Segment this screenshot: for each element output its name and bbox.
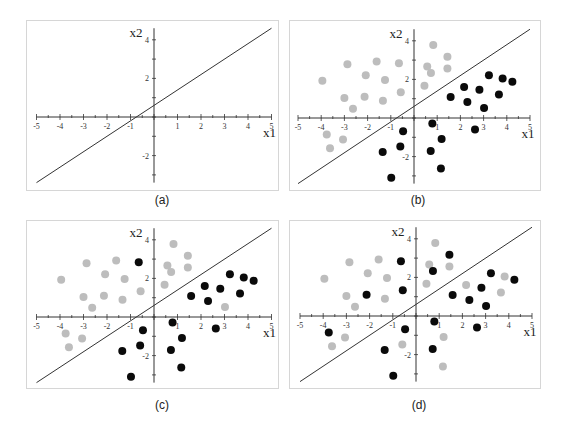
point-black: [236, 289, 244, 297]
point-black: [485, 71, 493, 79]
point-black: [389, 372, 397, 380]
point-gray: [161, 281, 169, 289]
svg-text:x1: x1: [263, 125, 276, 140]
point-black: [240, 273, 248, 281]
svg-text:-4: -4: [57, 122, 64, 131]
svg-text:-2: -2: [142, 352, 149, 361]
svg-text:4: 4: [246, 122, 250, 131]
caption-b: (b): [411, 193, 426, 207]
point-gray: [328, 342, 336, 350]
svg-text:x2: x2: [130, 225, 143, 240]
point-black: [167, 346, 175, 354]
point-black: [465, 296, 473, 304]
point-black: [475, 86, 483, 94]
point-black: [381, 346, 389, 354]
point-black: [396, 143, 404, 151]
svg-text:-3: -3: [343, 321, 350, 330]
point-gray: [345, 258, 353, 266]
point-black: [428, 119, 436, 127]
caption-c: (c): [155, 398, 169, 412]
svg-text:-2: -2: [364, 123, 371, 132]
point-gray: [184, 252, 192, 260]
point-black: [487, 269, 495, 277]
point-gray: [429, 41, 437, 49]
point-gray: [431, 239, 439, 247]
point-black: [363, 291, 371, 299]
point-gray: [170, 240, 178, 248]
point-gray: [375, 255, 383, 263]
point-gray: [221, 303, 229, 311]
svg-text:-5: -5: [297, 321, 304, 330]
svg-text:3: 3: [223, 322, 227, 331]
point-black: [438, 135, 446, 143]
svg-text:4: 4: [505, 123, 509, 132]
point-black: [499, 74, 507, 82]
point-black: [508, 78, 516, 86]
svg-text:-1: -1: [127, 122, 134, 131]
point-black: [482, 302, 490, 310]
svg-text:4: 4: [405, 37, 409, 46]
panel-c: -5-4-3-2-11234542-2x1x2: [26, 220, 279, 389]
point-gray: [383, 274, 391, 282]
point-black: [449, 291, 457, 299]
scatter-plot: -5-4-3-2-11234542-2x1x2: [290, 21, 542, 192]
point-black: [429, 267, 437, 275]
svg-text:-3: -3: [80, 122, 87, 131]
point-black: [135, 258, 143, 266]
point-gray: [101, 270, 109, 278]
svg-text:x1: x1: [263, 325, 276, 340]
point-gray: [137, 287, 145, 295]
point-black: [510, 276, 518, 284]
svg-text:3: 3: [223, 122, 227, 131]
point-black: [471, 125, 479, 133]
point-black: [204, 297, 212, 305]
point-gray: [88, 304, 96, 312]
point-gray: [397, 88, 405, 96]
svg-text:-2: -2: [366, 321, 373, 330]
point-gray: [439, 363, 447, 371]
point-gray: [65, 343, 73, 351]
point-black: [178, 334, 186, 342]
svg-text:2: 2: [145, 274, 149, 283]
point-black: [399, 286, 407, 294]
svg-text:-1: -1: [389, 321, 396, 330]
point-gray: [349, 105, 357, 113]
svg-text:-2: -2: [402, 153, 409, 162]
point-black: [495, 90, 503, 98]
point-gray: [320, 275, 328, 283]
point-gray: [351, 303, 359, 311]
point-gray: [57, 276, 65, 284]
svg-text:-3: -3: [80, 322, 87, 331]
svg-text:3: 3: [482, 123, 486, 132]
point-gray: [339, 136, 347, 144]
point-black: [250, 277, 258, 285]
point-black: [463, 98, 471, 106]
svg-text:x1: x1: [524, 324, 537, 339]
point-gray: [420, 82, 428, 90]
svg-text:x2: x2: [392, 224, 405, 239]
point-gray: [398, 341, 406, 349]
point-gray: [83, 259, 91, 267]
point-black: [445, 251, 453, 259]
svg-text:-5: -5: [33, 122, 40, 131]
point-black: [429, 345, 437, 353]
svg-text:4: 4: [246, 322, 250, 331]
point-black: [136, 342, 144, 350]
point-gray: [443, 53, 451, 61]
svg-text:x1: x1: [522, 126, 535, 141]
point-gray: [78, 335, 86, 343]
point-gray: [443, 64, 451, 72]
point-gray: [112, 256, 120, 264]
point-black: [139, 326, 147, 334]
point-black: [430, 317, 438, 325]
point-gray: [422, 280, 430, 288]
point-black: [477, 284, 485, 292]
scatter-plot: -5-4-3-2-11234542-2x1x2: [290, 221, 542, 390]
svg-text:-4: -4: [320, 321, 327, 330]
point-gray: [427, 69, 435, 77]
point-gray: [497, 288, 505, 296]
point-black: [427, 147, 435, 155]
svg-text:x2: x2: [130, 25, 143, 40]
svg-text:1: 1: [176, 122, 180, 131]
svg-text:-4: -4: [57, 322, 64, 331]
